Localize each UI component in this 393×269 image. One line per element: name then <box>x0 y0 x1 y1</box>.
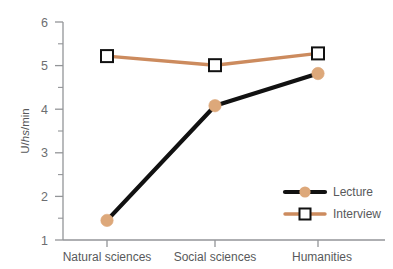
legend-swatch-marker-interview <box>300 209 311 220</box>
y-axis-title-pre: U/ <box>19 141 31 153</box>
legend-label-interview: Interview <box>333 207 381 221</box>
y-tick-label-4: 4 <box>41 103 48 117</box>
legend-item-interview[interactable]: Interview <box>285 207 381 221</box>
data-point-interview-natural-sciences <box>101 50 113 62</box>
data-point-lecture-natural-sciences <box>101 214 113 226</box>
data-point-interview-social-sciences <box>209 59 221 71</box>
chart-canvas: 6 5 4 3 2 1 U/hs/min Natural sciences So… <box>0 0 393 269</box>
line-chart: 6 5 4 3 2 1 U/hs/min Natural sciences So… <box>0 0 393 269</box>
legend-label-lecture: Lecture <box>333 185 373 199</box>
chart-background <box>0 0 393 269</box>
x-tick-label-natural-sciences: Natural sciences <box>63 250 152 264</box>
y-axis-title: U/hs/min <box>19 108 31 153</box>
svg-text:U/hs/min: U/hs/min <box>19 108 31 153</box>
y-axis-title-italic: hs <box>19 130 31 142</box>
data-point-interview-humanities <box>312 47 324 59</box>
legend-swatch-marker-lecture <box>299 186 310 197</box>
y-tick-label-3: 3 <box>41 146 48 160</box>
x-tick-label-social-sciences: Social sciences <box>174 250 257 264</box>
y-axis-title-post: /min <box>19 108 31 130</box>
y-tick-label-6: 6 <box>41 16 48 30</box>
y-tick-label-2: 2 <box>41 190 48 204</box>
y-tick-label-5: 5 <box>41 59 48 73</box>
x-tick-label-humanities: Humanities <box>292 250 352 264</box>
data-point-lecture-humanities <box>312 67 324 79</box>
data-point-lecture-social-sciences <box>209 100 221 112</box>
y-tick-label-1: 1 <box>41 234 48 248</box>
